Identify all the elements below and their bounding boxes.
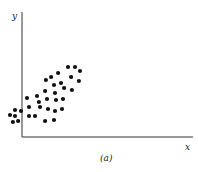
data-points [8, 65, 82, 124]
data-point [53, 91, 57, 95]
data-point [25, 96, 29, 100]
data-point [66, 65, 70, 69]
data-point [38, 105, 42, 109]
data-point [8, 113, 12, 117]
data-point [52, 118, 56, 122]
data-point [13, 108, 17, 112]
data-point [27, 105, 31, 109]
data-point [33, 114, 37, 118]
data-point [61, 97, 65, 101]
data-point [49, 75, 53, 79]
data-point [54, 98, 58, 102]
data-point [45, 97, 49, 101]
data-point [52, 83, 56, 87]
data-point [73, 65, 77, 69]
data-point [60, 107, 64, 111]
data-point [35, 94, 39, 98]
y-axis-label: y [11, 11, 18, 21]
data-point [69, 75, 73, 79]
data-point [27, 114, 31, 118]
data-point [77, 79, 81, 83]
x-axis-label: x [185, 142, 190, 152]
data-point [62, 86, 66, 90]
data-point [46, 107, 50, 111]
data-point [43, 119, 47, 123]
scatter-chart: y x (a) [0, 0, 198, 172]
data-point [43, 89, 47, 93]
data-point [16, 119, 20, 123]
data-point [78, 69, 82, 73]
data-point [11, 120, 15, 124]
data-point [37, 100, 41, 104]
data-point [19, 109, 23, 113]
figure-caption: (a) [100, 153, 113, 163]
data-point [53, 109, 57, 113]
data-point [70, 88, 74, 92]
data-point [13, 114, 17, 118]
data-point [56, 71, 60, 75]
data-point [44, 78, 48, 82]
data-point [59, 81, 63, 85]
